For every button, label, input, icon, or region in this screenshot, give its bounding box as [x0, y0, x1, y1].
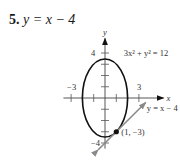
y-tick-label: 4	[91, 48, 96, 58]
line-equation-label: y = x − 4	[147, 103, 179, 113]
y-axis-label: y	[102, 27, 107, 37]
x-tick-label: −3	[67, 82, 76, 92]
graph: xy−334−4(1, −3)3x² + y² = 12y = x − 4	[0, 0, 180, 164]
point-label: (1, −3)	[121, 127, 144, 137]
x-tick-label: 3	[137, 82, 141, 92]
x-axis-label: x	[166, 93, 171, 103]
intersection-point	[114, 129, 119, 134]
ellipse-equation-label: 3x² + y² = 12	[124, 48, 168, 58]
y-tick-label: −4	[91, 138, 101, 148]
